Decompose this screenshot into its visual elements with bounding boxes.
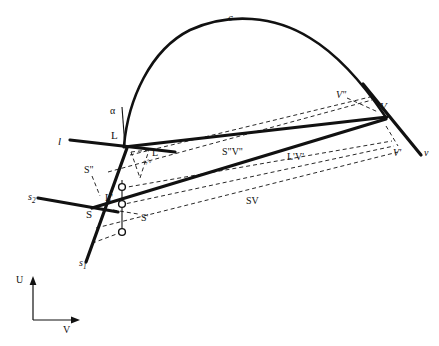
label-axis-V: V	[63, 325, 70, 335]
label-V2: V"	[336, 90, 346, 100]
label-L: L	[111, 130, 118, 141]
thin-reference-lines	[122, 107, 125, 236]
d-S2-tick	[92, 176, 100, 196]
label-V: V	[380, 101, 387, 112]
curve-c-path	[124, 19, 385, 146]
label-Vprime: V'	[393, 148, 401, 158]
uv-axes	[30, 276, 80, 323]
label-l: l	[58, 136, 61, 147]
label-alpha: α	[110, 106, 115, 116]
point-marker-2	[119, 201, 126, 208]
figure-drawing-canvas	[0, 0, 439, 346]
label-s2: s2	[28, 192, 36, 205]
label-S2: S"	[84, 165, 94, 175]
label-c: c	[228, 12, 233, 23]
d-L2-V2	[130, 97, 370, 155]
label-S: S	[86, 209, 92, 220]
label-Sprime: S'	[141, 213, 148, 223]
axis-v-arrowhead	[71, 317, 80, 324]
label-Lprime: L'	[105, 193, 113, 203]
d-Lp-Vp	[122, 141, 392, 188]
label-SV: SV	[246, 196, 259, 206]
curve-c	[124, 19, 385, 146]
dashed-construction-lines	[90, 97, 398, 244]
label-axis-U: U	[16, 275, 23, 285]
label-LprimeVprime: L'V'	[287, 152, 304, 162]
point-marker-3	[119, 229, 126, 236]
thick-construction-lines	[38, 84, 421, 262]
label-L2: L"	[152, 148, 162, 158]
figure-root: cαLlL"S"s2L'S'Ss2s1S"V"L'V'SVV"VV'vUV	[0, 0, 439, 346]
label-s1: s1	[79, 258, 87, 271]
point-marker-1	[119, 184, 126, 191]
d-Vp-tick	[386, 126, 398, 146]
label-v: v	[424, 148, 428, 158]
axis-u-arrowhead	[30, 276, 37, 285]
d-tri-b	[131, 152, 140, 178]
label-S2V2: S"V"	[222, 147, 243, 157]
